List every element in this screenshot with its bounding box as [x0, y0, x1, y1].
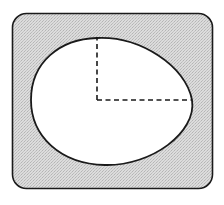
diagram-canvas: [0, 0, 224, 205]
egg-in-frame-diagram: [0, 0, 224, 205]
